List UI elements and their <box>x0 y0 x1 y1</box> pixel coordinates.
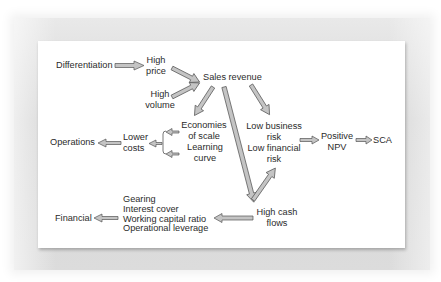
arrow-financial-measures-to-financial <box>94 214 118 222</box>
arrow-high-cash-flows-to-financial-measures <box>214 214 253 223</box>
node-sales-revenue: Sales revenue <box>203 72 262 83</box>
node-high-price-line1: High <box>144 55 168 66</box>
node-differentiation-label: Differentiation <box>56 60 113 70</box>
bracket-lower-costs <box>163 131 166 154</box>
node-learning-curve: Learning curve <box>183 142 227 164</box>
node-high-cash-line1: High cash <box>254 207 300 218</box>
node-high-volume: High volume <box>143 89 177 111</box>
node-financial: Financial <box>55 213 92 224</box>
node-economies-of-scale: Economies of scale <box>180 120 228 142</box>
node-high-cash-line2: flows <box>254 218 300 229</box>
node-positive-npv-line1: Positive <box>318 131 356 142</box>
arrow-economies-to-lower-costs <box>166 129 179 136</box>
node-high-price-line2: price <box>144 66 168 77</box>
node-high-volume-line2: volume <box>143 100 177 111</box>
node-positive-npv-line2: NPV <box>318 142 356 153</box>
node-positive-npv: Positive NPV <box>318 131 356 153</box>
arrow-learning-curve-to-lower-costs <box>166 151 179 158</box>
arrow-bracket-to-lower-costs <box>149 140 162 147</box>
node-sales-revenue-label: Sales revenue <box>203 72 262 82</box>
node-lower-costs-line1: Lower <box>123 132 148 143</box>
node-high-cash-flows: High cash flows <box>254 207 300 229</box>
node-financial-label: Financial <box>55 213 92 223</box>
node-operations: Operations <box>50 137 95 148</box>
node-low-business-line1: Low business <box>244 121 304 132</box>
node-learning-line1: Learning <box>183 142 227 153</box>
arrow-differentiation-to-high-price <box>115 61 144 70</box>
node-economies-line2: of scale <box>180 131 228 142</box>
node-high-volume-line1: High <box>143 89 177 100</box>
node-low-financial-line1: Low financial <box>244 143 304 154</box>
node-high-price: High price <box>144 55 168 77</box>
node-low-financial-risk: Low financial risk <box>244 143 304 165</box>
arrow-lower-costs-to-operations <box>98 139 121 147</box>
node-learning-line2: curve <box>183 153 227 164</box>
arrow-sales-revenue-to-low-business-risk <box>247 82 274 117</box>
node-low-financial-line2: risk <box>244 154 304 165</box>
node-sca: SCA <box>373 135 392 146</box>
node-economies-line1: Economies <box>180 120 228 131</box>
node-financial-measures: Gearing Interest cover Working capital r… <box>123 195 208 234</box>
node-lower-costs-line2: costs <box>123 143 148 154</box>
arrow-positive-npv-to-sca <box>356 136 372 144</box>
node-lower-costs: Lower costs <box>123 132 148 154</box>
node-low-business-line2: risk <box>244 132 304 143</box>
arrow-high-cash-flows-to-low-financial-risk <box>249 165 280 203</box>
node-sca-label: SCA <box>373 135 392 145</box>
node-differentiation: Differentiation <box>56 60 113 71</box>
measure-operational-leverage: Operational leverage <box>123 224 208 234</box>
node-operations-label: Operations <box>50 137 95 147</box>
node-low-business-risk: Low business risk <box>244 121 304 143</box>
